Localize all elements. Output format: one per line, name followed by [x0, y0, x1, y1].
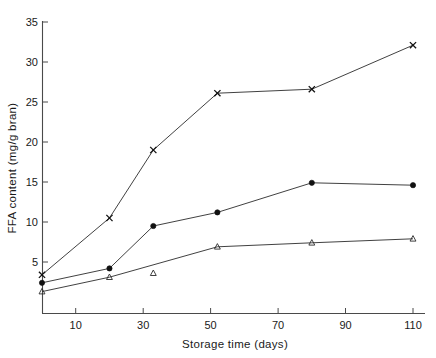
series-path: [42, 239, 413, 292]
data-point: [410, 236, 416, 242]
data-point-isolated-triangle: [150, 270, 156, 276]
x-tick-label: 70: [272, 319, 284, 331]
x-tick-labels: 10 30 50 70 90 110: [70, 319, 422, 331]
data-point: [410, 42, 416, 48]
series-layer: [39, 42, 416, 294]
y-tick-marks: [43, 22, 49, 262]
y-tick-label: 20: [26, 136, 38, 148]
data-point: [150, 147, 156, 153]
data-point: [410, 183, 415, 188]
y-tick-label: 30: [26, 56, 38, 68]
x-axis-title: Storage time (days): [182, 338, 288, 350]
series-series-open-triangle: [39, 236, 416, 294]
y-tick-label: 15: [26, 176, 38, 188]
series-series-cross: [39, 42, 416, 278]
plot-canvas: 35 30 25 20 15 10 5 10 30 50 70 90 110: [0, 0, 436, 358]
series-series-filled-circle: [39, 180, 415, 285]
y-tick-label: 10: [26, 216, 38, 228]
y-tick-label: 25: [26, 96, 38, 108]
data-point: [215, 210, 220, 215]
x-tick-label: 50: [204, 319, 216, 331]
y-tick-labels: 35 30 25 20 15 10 5: [26, 16, 38, 268]
x-tick-label: 10: [70, 319, 82, 331]
y-tick-label: 5: [32, 256, 38, 268]
y-tick-label: 35: [26, 16, 38, 28]
data-point: [39, 280, 44, 285]
chart-figure: 35 30 25 20 15 10 5 10 30 50 70 90 110: [0, 0, 436, 358]
data-point: [151, 223, 156, 228]
data-point: [106, 215, 112, 221]
x-tick-label: 30: [137, 319, 149, 331]
y-axis-title: FFA content (mg/g bran): [6, 103, 18, 234]
series-path: [42, 45, 413, 275]
data-point: [107, 266, 112, 271]
series-path: [42, 183, 413, 283]
x-tick-marks: [76, 308, 413, 314]
x-tick-label: 110: [404, 319, 422, 331]
x-tick-label: 90: [339, 319, 351, 331]
data-point: [309, 180, 314, 185]
